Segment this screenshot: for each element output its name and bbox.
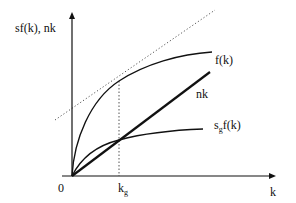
tangent-line [55, 10, 215, 120]
x-axis-label: k [270, 186, 276, 198]
kg-label: kg [118, 182, 128, 197]
y-axis-arrow-icon [69, 12, 75, 19]
sgf-curve-label: sgf(k) [214, 119, 241, 134]
kg-label-sub: g [124, 188, 128, 197]
y-axis-label: sf(k), nk [15, 22, 56, 34]
f-curve-label: f(k) [215, 54, 233, 66]
x-axis-arrow-icon [269, 173, 276, 179]
nk-line-label: nk [196, 88, 208, 100]
nk-line [72, 72, 210, 176]
sgf-label-rest: f(k) [223, 118, 241, 132]
origin-label: 0 [58, 182, 64, 194]
f-curve [72, 52, 212, 176]
sgf-curve [72, 129, 203, 176]
